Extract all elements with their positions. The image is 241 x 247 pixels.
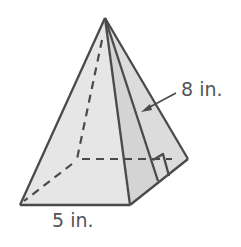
square-pyramid-diagram xyxy=(0,0,241,247)
base-edge-label: 5 in. xyxy=(52,209,94,231)
slant-height-label: 8 in. xyxy=(181,78,223,100)
